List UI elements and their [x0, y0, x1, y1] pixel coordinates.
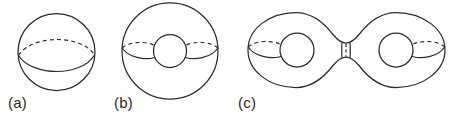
genus-surfaces-figure: (a) (b) (c): [0, 0, 454, 120]
sphere-outline: [18, 14, 95, 91]
panel-c-double-torus: [248, 13, 445, 88]
panel-b-torus: [122, 3, 218, 99]
figure-label-a: (a): [8, 95, 27, 110]
figure-label-b: (b): [114, 95, 133, 110]
panel-a-sphere: [18, 14, 95, 91]
figure-label-c: (c): [238, 95, 256, 110]
double-torus-left-hole-outline: [280, 33, 314, 67]
torus-hole-outline: [154, 35, 187, 68]
figure-canvas: [0, 0, 454, 120]
double-torus-right-hole-outline: [379, 33, 413, 67]
